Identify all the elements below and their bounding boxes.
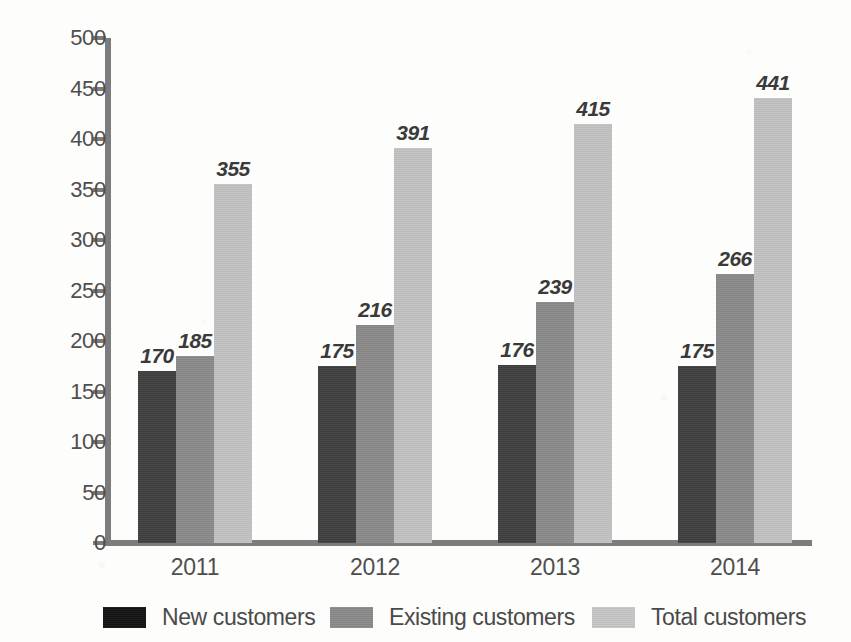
bar-2011-series-2[interactable] bbox=[214, 184, 252, 543]
legend-item-2[interactable]: Total customers bbox=[592, 602, 806, 632]
bar-value-label-2014-series-2: 441 bbox=[738, 72, 808, 93]
chart-legend: New customersExisting customersTotal cus… bbox=[0, 602, 851, 636]
bar-2011-series-0[interactable] bbox=[138, 371, 176, 543]
bar-group-2014 bbox=[678, 38, 792, 543]
x-category-label-2012: 2012 bbox=[315, 556, 435, 579]
bar-2014-series-0[interactable] bbox=[678, 366, 716, 543]
x-category-label-2014: 2014 bbox=[675, 556, 795, 579]
legend-label: New customers bbox=[162, 606, 315, 629]
chart-page: 050100150200250300350400450500 201120122… bbox=[0, 0, 851, 642]
bar-value-label-2011-series-2: 355 bbox=[198, 158, 268, 179]
bar-2014-series-1[interactable] bbox=[716, 274, 754, 543]
bar-value-label-2014-series-0: 175 bbox=[662, 340, 732, 361]
bar-value-label-2012-series-0: 175 bbox=[302, 340, 372, 361]
legend-swatch-icon bbox=[103, 607, 146, 628]
x-category-label-2013: 2013 bbox=[495, 556, 615, 579]
bar-2012-series-2[interactable] bbox=[394, 148, 432, 543]
bar-chart: 050100150200250300350400450500 201120122… bbox=[0, 0, 851, 642]
x-category-label-2011: 2011 bbox=[135, 556, 255, 579]
bar-group-2011 bbox=[138, 38, 252, 543]
bar-value-label-2011-series-1: 185 bbox=[160, 330, 230, 351]
legend-item-0[interactable]: New customers bbox=[103, 602, 315, 632]
bar-value-label-2014-series-1: 266 bbox=[700, 248, 770, 269]
legend-swatch-icon bbox=[592, 607, 635, 628]
bars-layer bbox=[0, 38, 851, 543]
bar-value-label-2012-series-2: 391 bbox=[378, 122, 448, 143]
bar-2013-series-1[interactable] bbox=[536, 302, 574, 543]
bar-group-2012 bbox=[318, 38, 432, 543]
bar-2013-series-2[interactable] bbox=[574, 124, 612, 543]
legend-label: Total customers bbox=[651, 606, 806, 629]
bar-value-label-2013-series-1: 239 bbox=[520, 276, 590, 297]
bar-value-label-2013-series-0: 176 bbox=[482, 339, 552, 360]
bar-value-label-2013-series-2: 415 bbox=[558, 98, 628, 119]
legend-item-1[interactable]: Existing customers bbox=[330, 602, 575, 632]
legend-label: Existing customers bbox=[389, 606, 575, 629]
bar-2013-series-0[interactable] bbox=[498, 365, 536, 543]
bar-2014-series-2[interactable] bbox=[754, 98, 792, 543]
bar-value-label-2012-series-1: 216 bbox=[340, 299, 410, 320]
bar-2012-series-0[interactable] bbox=[318, 366, 356, 543]
bar-2011-series-1[interactable] bbox=[176, 356, 214, 543]
legend-swatch-icon bbox=[330, 607, 373, 628]
